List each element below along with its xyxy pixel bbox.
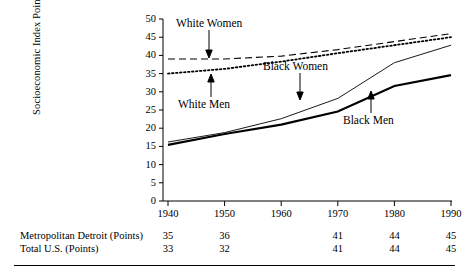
x-tick-label-1970: 1970	[315, 208, 361, 219]
bottom-divider	[14, 265, 455, 266]
table-cell-detroit-1970: 41	[315, 230, 361, 242]
table-row-label-detroit: Metropolitan Detroit (Points)	[20, 230, 143, 242]
x-tick-label-1960: 1960	[258, 208, 304, 219]
table-cell-total-us-1990: 45	[428, 243, 469, 255]
series-label-black-women: Black Women	[263, 60, 328, 72]
figure-container: Socioeconomic Index Points 50 45 40 35 3…	[0, 0, 469, 276]
x-tick-label-1940: 1940	[145, 208, 191, 219]
series-label-white-women: White Women	[176, 17, 242, 29]
x-axis-ticks	[168, 201, 451, 206]
table-cell-detroit-1990: 45	[428, 230, 469, 242]
table-cell-total-us-1970: 41	[315, 243, 361, 255]
series-label-black-men: Black Men	[343, 114, 394, 126]
series-label-white-men: White Men	[178, 98, 230, 110]
x-tick-label-1990: 1990	[428, 208, 469, 219]
table-cell-detroit-1980: 44	[371, 230, 417, 242]
table-cell-total-us-1940: 33	[145, 243, 191, 255]
table-cell-total-us-1950: 32	[202, 243, 248, 255]
table-cell-total-us-1980: 44	[371, 243, 417, 255]
table-cell-detroit-1950: 36	[202, 230, 248, 242]
x-tick-label-1980: 1980	[371, 208, 417, 219]
table-row-label-total-us: Total U.S. (Points)	[20, 243, 99, 255]
table-cell-detroit-1940: 35	[145, 230, 191, 242]
series-line-black-men	[168, 75, 451, 145]
x-tick-label-1950: 1950	[202, 208, 248, 219]
y-axis-ticks	[159, 19, 163, 201]
